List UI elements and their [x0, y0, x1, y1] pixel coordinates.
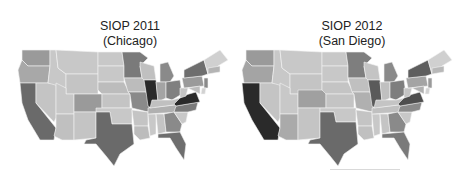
- state-new-mexico: [74, 112, 96, 140]
- state-delaware: [425, 88, 430, 94]
- state-indiana: [380, 82, 390, 102]
- state-florida: [158, 132, 186, 160]
- state-north-dakota: [98, 52, 124, 66]
- state-montana: [56, 50, 98, 74]
- state-colorado: [298, 90, 326, 108]
- state-new-jersey: [428, 78, 432, 88]
- state-iowa: [348, 78, 370, 92]
- state-delaware: [201, 88, 206, 94]
- chart-title-text: SIOP 2012: [292, 19, 412, 34]
- chart-title-2011: SIOP 2011 (Chicago): [75, 19, 185, 49]
- state-washington: [22, 50, 50, 66]
- state-south-dakota: [98, 66, 124, 82]
- state-indiana: [156, 82, 166, 102]
- state-south-dakota: [322, 66, 348, 82]
- state-iowa: [124, 78, 146, 92]
- state-wisconsin: [140, 62, 156, 80]
- state-wisconsin: [364, 62, 380, 80]
- state-louisiana: [134, 126, 150, 140]
- state-florida: [382, 132, 410, 160]
- state-new-york: [408, 60, 432, 78]
- chart-title-text: SIOP 2011: [75, 19, 185, 34]
- state-nebraska: [98, 82, 130, 94]
- chart-subtitle-text: (Chicago): [75, 34, 185, 49]
- state-arizona: [54, 114, 74, 140]
- state-north-dakota: [322, 52, 348, 66]
- state-kansas: [102, 94, 130, 108]
- state-kansas: [326, 94, 354, 108]
- state-new-york: [184, 60, 208, 78]
- underline-decoration: [330, 169, 400, 170]
- chart-title-2012: SIOP 2012 (San Diego): [292, 19, 412, 49]
- state-michigan: [384, 62, 398, 82]
- state-ohio: [166, 80, 182, 100]
- state-arizona: [278, 114, 298, 140]
- state-wyoming: [66, 74, 98, 94]
- state-new-jersey: [204, 78, 208, 88]
- state-ohio: [390, 80, 406, 100]
- state-washington: [246, 50, 274, 66]
- state-arkansas: [132, 110, 148, 126]
- us-choropleth-map-2011: [0, 48, 235, 175]
- state-louisiana: [358, 126, 374, 140]
- us-choropleth-map-2012: [232, 48, 467, 175]
- state-michigan: [160, 62, 174, 82]
- state-montana: [280, 50, 322, 74]
- chart-subtitle-text: (San Diego): [292, 34, 412, 49]
- state-arkansas: [356, 110, 372, 126]
- state-nebraska: [322, 82, 354, 94]
- state-new-mexico: [298, 108, 320, 140]
